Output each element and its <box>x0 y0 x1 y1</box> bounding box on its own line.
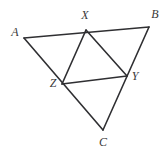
midsegment-ZY <box>62 76 127 84</box>
geometry-figure: A X B Z Y C <box>0 0 167 154</box>
vertex-label-C: C <box>99 136 107 148</box>
vertex-label-B: B <box>151 8 158 20</box>
vertex-label-Z: Z <box>50 77 57 89</box>
vertex-label-X: X <box>81 9 88 21</box>
midsegment-XZ <box>62 30 86 84</box>
vertex-label-Y: Y <box>132 70 139 82</box>
side-AB <box>24 27 149 38</box>
vertex-label-A: A <box>11 26 18 38</box>
geometry-drawing <box>0 0 167 154</box>
midsegment-XY <box>86 30 127 76</box>
